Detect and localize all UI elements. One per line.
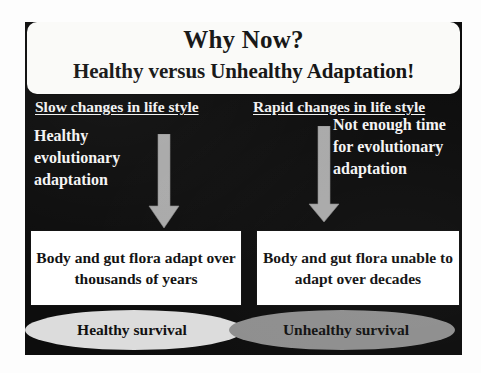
survival-label-unhealthy: Unhealthy survival [283, 321, 409, 339]
outcome-box-rapid: Body and gut flora unable to adapt over … [256, 230, 460, 306]
slide-header: Why Now? Healthy versus Unhealthy Adapta… [27, 22, 460, 94]
column-body-rapid: Not enough time for evolutionary adaptat… [333, 114, 461, 180]
survival-ellipse-healthy: Healthy survival [25, 310, 243, 350]
presentation-slide: Why Now? Healthy versus Unhealthy Adapta… [25, 22, 462, 355]
survival-ellipse-unhealthy: Unhealthy survival [229, 310, 455, 350]
down-arrow-icon-slow [145, 134, 183, 230]
outcome-text-slow: Body and gut flora adapt over thousands … [36, 247, 236, 289]
column-heading-slow: Slow changes in life style [35, 98, 199, 116]
slide-subtitle: Healthy versus Unhealthy Adaptation! [27, 58, 460, 84]
survival-label-healthy: Healthy survival [77, 321, 187, 339]
outcome-text-rapid: Body and gut flora unable to adapt over … [262, 247, 454, 289]
column-body-slow: Healthy evolutionary adaptation [34, 125, 154, 191]
down-arrow-icon-rapid [305, 126, 343, 222]
outcome-box-slow: Body and gut flora adapt over thousands … [30, 230, 242, 306]
scanned-page: Why Now? Healthy versus Unhealthy Adapta… [0, 0, 481, 373]
page-title: Why Now? [27, 25, 460, 55]
